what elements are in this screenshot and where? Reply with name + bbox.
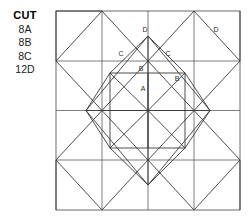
screenshot-root: CUT 8A 8B 8C 12D — [0, 0, 249, 222]
patch-label-a-center: A — [141, 85, 146, 92]
patch-label-c-right: C — [165, 50, 170, 57]
quilt-block-svg: D D C C B B A — [0, 0, 249, 222]
patch-label-b-top: B — [139, 65, 144, 72]
patch-label-c-left: C — [118, 50, 123, 57]
patch-label-d-left: D — [142, 26, 147, 33]
quilt-block-diagram: D D C C B B A — [0, 0, 249, 222]
patch-label-d-right: D — [213, 26, 218, 33]
patch-label-b-right: B — [175, 75, 180, 82]
